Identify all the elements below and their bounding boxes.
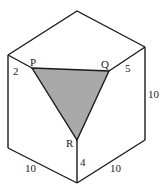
cube-diagram: P Q R 2 5 10 4 10 10 [0, 0, 167, 190]
label-bottom-left-edge: 10 [25, 162, 37, 174]
edge-left-top-to-P [8, 55, 32, 68]
label-right-segment: 5 [125, 62, 131, 74]
top-face-back-edges [8, 11, 145, 55]
label-right-edge: 10 [148, 88, 160, 100]
label-R: R [66, 137, 74, 149]
label-P: P [30, 56, 36, 68]
label-bottom-right-edge: 10 [110, 162, 122, 174]
label-Q: Q [101, 58, 109, 70]
label-front-segment: 4 [80, 156, 86, 168]
label-left-segment: 2 [13, 65, 19, 77]
shaded-triangle-PQR [32, 68, 109, 140]
edge-bottom-left [8, 148, 77, 183]
